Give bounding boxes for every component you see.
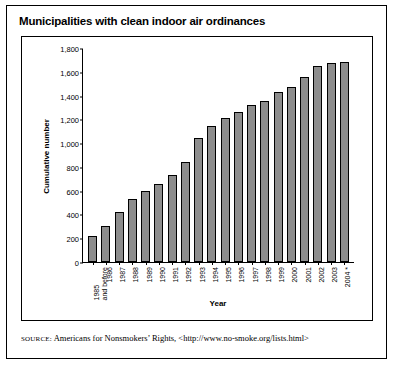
bar: [300, 77, 309, 262]
x-axis-tick-label: 1986: [106, 267, 114, 283]
y-axis-title: Cumulative number: [40, 49, 52, 263]
bar: [154, 184, 163, 262]
bar-slot: 2004 *: [338, 49, 351, 262]
bar-slot: 1995: [219, 49, 232, 262]
x-axis-tick-mark: [291, 262, 292, 265]
bar: [340, 62, 349, 262]
bar: [194, 138, 203, 262]
y-axis-tick-label: 200: [66, 235, 79, 244]
y-axis-tick-label: 1,600: [60, 68, 79, 77]
bar: [115, 212, 124, 262]
bar-slot: 1985 and before: [86, 49, 99, 262]
chart-panel: Cumulative number 02004006008001,0001,20…: [21, 36, 373, 321]
bar: [274, 92, 283, 262]
bar-slot: 2003: [325, 49, 338, 262]
bar-series: 1985 and before1986198719881989199019911…: [83, 49, 354, 262]
x-axis-tick-label: 1993: [199, 267, 207, 283]
bar-slot: 1992: [179, 49, 192, 262]
source-text: Americans for Nonsmokers’ Rights, <http:…: [54, 333, 309, 343]
x-axis-tick-label: 2004 *: [344, 267, 352, 287]
x-axis-tick-mark: [212, 262, 213, 265]
x-axis-tick-mark: [252, 262, 253, 265]
x-axis-tick-label: 2001: [305, 267, 313, 283]
x-axis-tick-label: 1998: [265, 267, 273, 283]
y-axis-tick-label: 400: [66, 211, 79, 220]
x-axis-tick-label: 1997: [252, 267, 260, 283]
bar: [141, 191, 150, 262]
x-axis-tick-label: 1988: [132, 267, 140, 283]
bar: [287, 87, 296, 262]
x-axis-tick-mark: [172, 262, 173, 265]
bar: [181, 162, 190, 262]
x-axis-tick-mark: [159, 262, 160, 265]
x-axis-tick-label: 1995: [225, 267, 233, 283]
bar-slot: 1997: [245, 49, 258, 262]
x-axis-tick-mark: [238, 262, 239, 265]
x-axis-tick-mark: [106, 262, 107, 265]
x-axis-tick-label: 1989: [146, 267, 154, 283]
x-axis-tick-label: 1990: [159, 267, 167, 283]
x-axis-tick-mark: [199, 262, 200, 265]
x-axis-tick-mark: [119, 262, 120, 265]
x-axis-title: Year: [82, 299, 354, 308]
x-axis-tick-mark: [278, 262, 279, 265]
x-axis-tick-label: 1999: [278, 267, 286, 283]
x-axis-tick-mark: [331, 262, 332, 265]
bar-slot: 1993: [192, 49, 205, 262]
bar-slot: 2002: [311, 49, 324, 262]
y-axis-tick-mark: [80, 263, 83, 264]
bar-slot: 1991: [166, 49, 179, 262]
bar: [234, 112, 243, 262]
bar-slot: 2000: [285, 49, 298, 262]
x-axis-tick-label: 1987: [119, 267, 127, 283]
x-axis-tick-mark: [185, 262, 186, 265]
bar-slot: 1989: [139, 49, 152, 262]
x-axis-tick-mark: [344, 262, 345, 265]
source-note: SOURCE: Americans for Nonsmokers’ Rights…: [21, 333, 309, 343]
y-axis-tick-label: 1,800: [60, 45, 79, 54]
bar-slot: 1987: [113, 49, 126, 262]
bar: [88, 236, 97, 262]
bar: [260, 101, 269, 262]
x-axis-tick-mark: [225, 262, 226, 265]
x-axis-tick-label: 1992: [185, 267, 193, 283]
bar-slot: 1994: [205, 49, 218, 262]
bar-slot: 1996: [232, 49, 245, 262]
bar-slot: 1990: [152, 49, 165, 262]
y-axis-title-text: Cumulative number: [42, 119, 51, 194]
bar: [207, 126, 216, 262]
x-axis-tick-label: 2003: [331, 267, 339, 283]
bar: [247, 105, 256, 262]
plot-area: 02004006008001,0001,2001,4001,6001,800 1…: [82, 49, 354, 263]
bar-slot: 1998: [258, 49, 271, 262]
figure-frame: Municipalities with clean indoor air ord…: [6, 5, 387, 359]
y-axis-tick-label: 600: [66, 187, 79, 196]
y-axis-tick-label: 1,400: [60, 92, 79, 101]
x-axis-tick-mark: [132, 262, 133, 265]
y-axis-tick-label: 1,200: [60, 116, 79, 125]
bar: [313, 66, 322, 262]
bar-slot: 1999: [272, 49, 285, 262]
x-axis-tick-mark: [93, 262, 94, 265]
bar-slot: 2001: [298, 49, 311, 262]
x-axis-tick-label: 2002: [318, 267, 326, 283]
bar: [168, 175, 177, 262]
y-axis-tick-label: 1,000: [60, 140, 79, 149]
y-axis-tick-label: 0: [75, 259, 79, 268]
bar: [128, 199, 137, 262]
y-axis-tick-label: 800: [66, 163, 79, 172]
x-axis-tick-mark: [265, 262, 266, 265]
page-title: Municipalities with clean indoor air ord…: [19, 15, 265, 27]
x-axis-tick-label: 2000: [291, 267, 299, 283]
x-axis-tick-label: 1994: [212, 267, 220, 283]
bar-slot: 1988: [126, 49, 139, 262]
bar: [327, 63, 336, 262]
bar: [101, 226, 110, 262]
bar-slot: 1986: [99, 49, 112, 262]
x-axis-tick-mark: [305, 262, 306, 265]
x-axis-tick-mark: [318, 262, 319, 265]
x-axis-tick-label: 1996: [238, 267, 246, 283]
source-label: SOURCE:: [21, 335, 52, 343]
x-axis-tick-label: 1991: [172, 267, 180, 283]
bar: [221, 118, 230, 262]
